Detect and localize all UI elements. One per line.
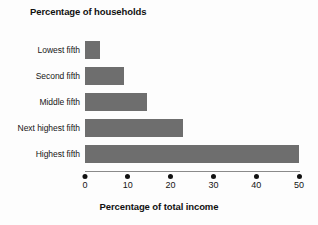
- x-axis-tick: 50: [294, 171, 304, 191]
- tick-dot-icon: [82, 174, 87, 179]
- tick-dot-icon: [125, 174, 130, 179]
- bar-category-label: Next highest fifth: [18, 123, 80, 133]
- x-axis-tick-label: 10: [123, 180, 133, 191]
- x-axis-tick: 30: [208, 171, 218, 191]
- tick-dot-icon: [168, 174, 173, 179]
- bar-chart: Percentage of households Lowest fifthSec…: [0, 0, 318, 225]
- bar-category-label: Lowest fifth: [38, 45, 80, 55]
- bar-row: Highest fifth: [85, 145, 299, 163]
- x-axis-tick: 0: [82, 171, 87, 191]
- bar: [85, 67, 124, 85]
- x-axis-tick: 20: [166, 171, 176, 191]
- x-axis-ticks: 01020304050: [85, 171, 299, 197]
- x-axis-tick: 40: [251, 171, 261, 191]
- bar-row: Lowest fifth: [85, 41, 299, 59]
- x-axis-tick-label: 40: [251, 180, 261, 191]
- y-axis-title: Percentage of households: [30, 6, 146, 18]
- x-axis-title: Percentage of total income: [0, 201, 318, 212]
- bar-row: Middle fifth: [85, 93, 299, 111]
- plot-area: Lowest fifthSecond fifthMiddle fifthNext…: [85, 41, 299, 171]
- tick-dot-icon: [296, 174, 301, 179]
- bar-category-label: Highest fifth: [36, 149, 80, 159]
- x-axis-tick-label: 20: [166, 180, 176, 191]
- x-axis-tick-label: 50: [294, 180, 304, 191]
- bar: [85, 119, 183, 137]
- x-axis-tick-label: 30: [208, 180, 218, 191]
- bar-row: Next highest fifth: [85, 119, 299, 137]
- tick-dot-icon: [254, 174, 259, 179]
- bar-category-label: Second fifth: [36, 71, 80, 81]
- tick-dot-icon: [211, 174, 216, 179]
- bar: [85, 41, 100, 59]
- bar: [85, 93, 147, 111]
- x-axis-tick-label: 0: [82, 180, 87, 191]
- bar-category-label: Middle fifth: [39, 97, 80, 107]
- x-axis-tick: 10: [123, 171, 133, 191]
- bar-row: Second fifth: [85, 67, 299, 85]
- bar: [85, 145, 299, 163]
